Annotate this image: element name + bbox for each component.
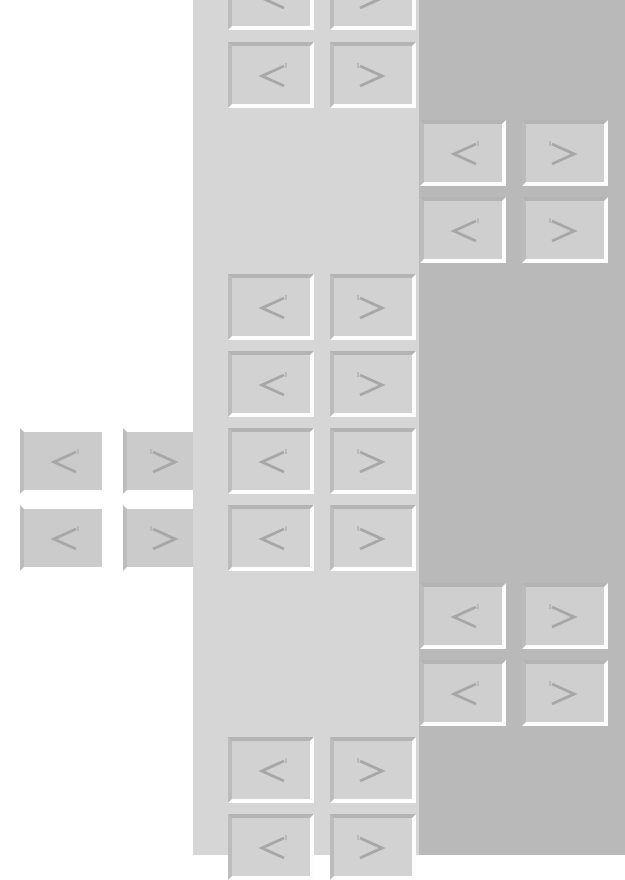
- cluster-f-prev-button[interactable]: [420, 660, 506, 726]
- cluster-c-prev-button[interactable]: [228, 351, 314, 417]
- cluster-b-next-button[interactable]: [522, 197, 608, 263]
- cluster-g-next-button[interactable]: [330, 814, 416, 880]
- right-column: [419, 0, 625, 855]
- cluster-d-prev-button[interactable]: [228, 505, 314, 571]
- cluster-g-next-button[interactable]: [330, 737, 416, 803]
- cluster-d-prev-button[interactable]: [228, 428, 314, 494]
- cluster-f-next-button[interactable]: [522, 660, 608, 726]
- cluster-d-next-button[interactable]: [330, 428, 416, 494]
- cluster-a-prev-button[interactable]: [228, 0, 314, 30]
- cluster-g-prev-button[interactable]: [228, 737, 314, 803]
- middle-column: [193, 0, 419, 855]
- cluster-b-prev-button[interactable]: [420, 120, 506, 186]
- cluster-a-prev-button[interactable]: [228, 42, 314, 108]
- left-column: [0, 0, 193, 855]
- cluster-c-next-button[interactable]: [330, 351, 416, 417]
- cluster-e-prev-button[interactable]: [20, 428, 106, 494]
- cluster-c-prev-button[interactable]: [228, 274, 314, 340]
- cluster-e-prev-button[interactable]: [20, 505, 106, 571]
- cluster-f-next-button[interactable]: [522, 583, 608, 649]
- cluster-b-prev-button[interactable]: [420, 197, 506, 263]
- cluster-b-next-button[interactable]: [522, 120, 608, 186]
- cluster-a-next-button[interactable]: [330, 0, 416, 30]
- cluster-a-next-button[interactable]: [330, 42, 416, 108]
- cluster-f-prev-button[interactable]: [420, 583, 506, 649]
- cluster-c-next-button[interactable]: [330, 274, 416, 340]
- cluster-d-next-button[interactable]: [330, 505, 416, 571]
- cluster-g-prev-button[interactable]: [228, 814, 314, 880]
